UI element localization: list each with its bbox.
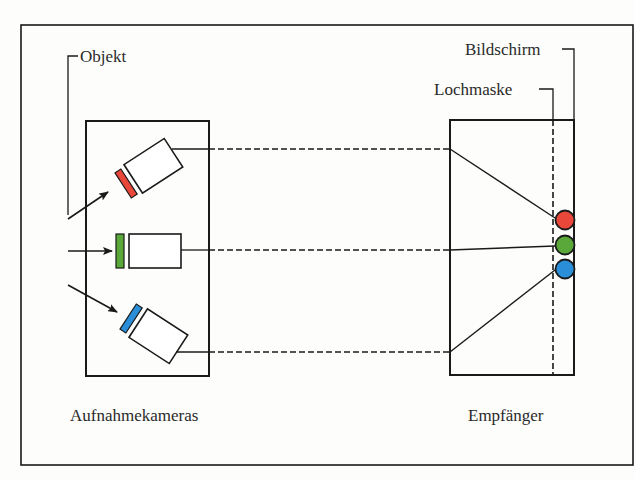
green-filter — [116, 234, 124, 268]
blue-phosphor-dot — [556, 260, 575, 279]
red-camera-body — [124, 138, 183, 193]
color-tv-transmission-diagram: Objekt Bildschirm Lochmaske Auf — [0, 0, 635, 480]
screen-leader-line — [562, 49, 574, 120]
arrow-to-red-camera — [68, 192, 108, 219]
red-camera — [114, 138, 183, 199]
arrow-to-blue-camera — [68, 285, 117, 312]
beam-blue — [450, 270, 555, 352]
green-camera — [116, 234, 181, 268]
cameras-caption: Aufnahmekameras — [70, 406, 198, 425]
blue-camera-body — [129, 309, 188, 364]
beam-red — [450, 149, 555, 218]
red-phosphor-dot — [556, 211, 575, 230]
outer-frame — [21, 25, 633, 465]
green-phosphor-dot — [556, 236, 575, 255]
object-leader-line — [68, 56, 78, 215]
shadow-mask-label: Lochmaske — [434, 80, 512, 99]
blue-camera — [119, 302, 188, 363]
object-label: Objekt — [80, 47, 127, 66]
shadow-mask-leader-line — [539, 89, 553, 120]
screen-label: Bildschirm — [465, 40, 541, 59]
receiver-caption: Empfänger — [468, 406, 544, 425]
beam-green — [450, 246, 555, 250]
green-camera-body — [129, 234, 181, 268]
